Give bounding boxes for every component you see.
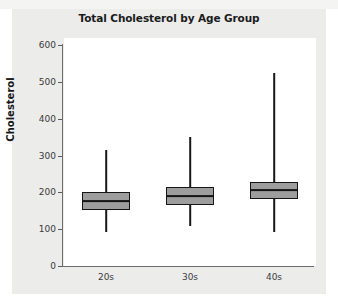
y-axis-tick-label: 500 [22,77,56,87]
median-line [250,189,298,191]
chart-figure: Total Cholesterol by Age Group Cholester… [0,0,338,304]
x-axis-line [62,266,314,267]
x-axis-tick-label: 30s [165,272,215,282]
y-axis-title: Cholesterol [5,50,16,170]
whisker-line [189,137,191,227]
y-axis-tick-label: 100 [22,224,56,234]
median-line [82,200,130,202]
x-axis-tick-label: 40s [249,272,299,282]
y-axis-tick-label: 200 [22,187,56,197]
y-axis-tick-label: 400 [22,114,56,124]
plot-area [64,38,316,266]
scan-noise-band [0,0,338,9]
y-axis-tick-label: 600 [22,40,56,50]
median-line [166,195,214,197]
whisker-line [273,73,275,232]
x-axis-tick-label: 20s [81,272,131,282]
y-axis-tick-label: 0 [22,261,56,271]
chart-title: Total Cholesterol by Age Group [0,12,338,24]
y-axis-tick-label: 300 [22,151,56,161]
